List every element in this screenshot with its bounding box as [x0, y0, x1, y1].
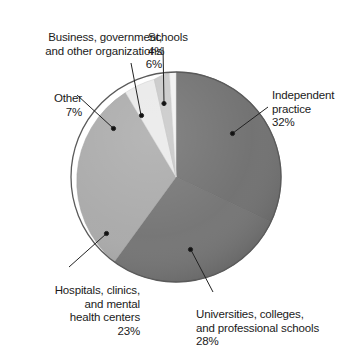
pie-shading-overlay: [71, 72, 281, 282]
leader-dot-independent: [230, 131, 234, 135]
slice-label-independent-practice: Independent practice 32%: [272, 76, 344, 143]
slice-label-schools-percent: 4%: [148, 45, 228, 58]
slice-label-business-text: Business, government, and other organiza…: [45, 31, 162, 56]
slice-label-business-percent: 6%: [6, 58, 162, 71]
slice-label-universities-percent: 28%: [196, 335, 344, 346]
slice-label-universities-text: Universities, colleges, and professional…: [196, 308, 319, 333]
slice-label-universities: Universities, colleges, and professional…: [196, 295, 344, 346]
slice-label-hospitals-text: Hospitals, clinics, and mental health ce…: [55, 284, 140, 323]
slice-label-schools-text: Schools: [148, 31, 188, 43]
leader-dot-business: [139, 113, 143, 117]
slice-label-other-percent: 7%: [10, 106, 82, 119]
leader-dot-hospitals: [104, 231, 108, 235]
slice-label-other: Other 7%: [10, 79, 82, 133]
leader-dot-schools: [162, 101, 166, 105]
slice-label-hospitals-percent: 23%: [2, 325, 140, 338]
slice-label-business: Business, government, and other organiza…: [6, 18, 162, 85]
slice-label-schools: Schools 4%: [148, 18, 228, 72]
leader-dot-universities: [188, 247, 192, 251]
slice-label-independent-practice-percent: 32%: [272, 116, 344, 129]
slice-label-independent-practice-text: Independent practice: [272, 89, 334, 114]
slice-label-other-text: Other: [54, 92, 82, 104]
leader-dot-other: [111, 126, 115, 130]
slice-label-hospitals: Hospitals, clinics, and mental health ce…: [2, 271, 140, 346]
pie-chart: Business, government, and other organiza…: [0, 0, 344, 346]
